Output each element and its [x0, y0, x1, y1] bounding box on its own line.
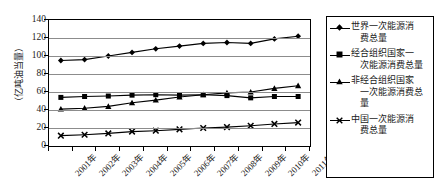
x-tick-label: 2004年: [144, 152, 171, 179]
gridline: [49, 110, 310, 111]
data-point-square: [248, 95, 253, 100]
gridline: [49, 38, 310, 39]
x-tick-label: 2007年: [215, 152, 242, 179]
data-point-diamond: [224, 40, 230, 46]
chart-legend: 世界一次能源消费总量 经合组织国家一次能源消费总量 非经合组织国家一次能源消费总…: [326, 16, 434, 178]
diamond-marker-icon: [329, 22, 351, 34]
data-point-diamond: [58, 58, 64, 64]
legend-item-non-oecd[interactable]: 非经合组织国家一次能源消费总量: [329, 75, 431, 110]
series-3: [58, 120, 301, 139]
legend-label-china: 中国一次能源消费总量: [351, 114, 431, 137]
data-point-diamond: [153, 46, 159, 52]
x-tick-label: 2001年: [73, 152, 100, 179]
data-point-square: [272, 94, 277, 99]
x-axis-tick-labels: 2001年2002年2003年2004年2005年2006年2007年2008年…: [0, 150, 330, 194]
data-point-diamond: [82, 57, 88, 63]
plot-area: [48, 19, 311, 147]
x-tick-label: 2002年: [96, 152, 123, 179]
x-tick-label: 2005年: [168, 152, 195, 179]
legend-label-oecd: 经合组织国家一次能源消费总量: [351, 48, 431, 71]
x-tick-label: 2003年: [120, 152, 147, 179]
legend-label-non-oecd: 非经合组织国家一次能源消费总量: [351, 75, 431, 110]
legend-item-china[interactable]: 中国一次能源消费总量: [329, 114, 431, 137]
data-point-square: [296, 94, 301, 99]
triangle-marker-icon: [329, 76, 351, 88]
x-tick-label: 2006年: [191, 152, 218, 179]
data-point-square: [82, 94, 87, 99]
data-point-diamond: [200, 41, 206, 47]
legend-item-world[interactable]: 世界一次能源消费总量: [329, 21, 431, 44]
data-point-diamond: [248, 41, 254, 47]
chart-figure: （亿吨油当量） 020406080100120140 2001年2002年200…: [0, 0, 438, 194]
y-axis-tick-labels: 020406080100120140: [14, 12, 46, 152]
data-point-triangle: [295, 83, 301, 89]
data-point-square: [106, 94, 111, 99]
cross-marker-icon: [329, 115, 351, 127]
data-point-square: [130, 93, 135, 98]
square-marker-icon: [329, 49, 351, 61]
data-point-square: [58, 95, 63, 100]
gridline: [49, 128, 310, 129]
x-tick-label: 2008年: [239, 152, 266, 179]
gridline: [49, 92, 310, 93]
data-point-diamond: [129, 50, 135, 56]
gridline: [49, 56, 310, 57]
x-tick-label: 2010年: [286, 152, 313, 179]
data-point-diamond: [177, 43, 183, 49]
legend-item-oecd[interactable]: 经合组织国家一次能源消费总量: [329, 48, 431, 71]
gridline: [49, 74, 310, 75]
legend-label-world: 世界一次能源消费总量: [351, 21, 431, 44]
x-tick-label: 2009年: [263, 152, 290, 179]
